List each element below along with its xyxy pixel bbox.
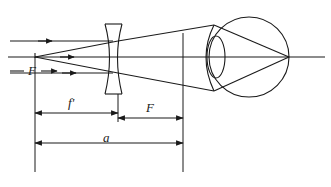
diverging-lens-left-surface [105,24,110,94]
optics-ray-diagram: F f' F a [0,0,331,187]
diverged-ray-upper-virtual [35,41,118,57]
label-object-distance: a [103,131,110,144]
label-focal-length-eye: F [146,101,154,114]
diverging-lens-right-surface [118,24,123,94]
label-focal-point-left: F [28,64,36,77]
diverged-ray-lower [118,73,214,91]
label-focal-length-lens: f' [68,96,74,109]
diagram-canvas [0,0,331,187]
diverged-ray-upper [118,25,214,41]
